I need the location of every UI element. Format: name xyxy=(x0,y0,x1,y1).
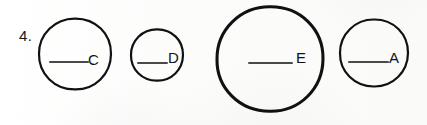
answer-blank-e[interactable] xyxy=(248,62,293,64)
circle-label-e: E xyxy=(296,50,306,65)
circle-outline-e xyxy=(213,2,327,116)
answer-blank-c[interactable] xyxy=(49,61,89,63)
circle-label-d: D xyxy=(168,50,179,65)
item-number: 4. xyxy=(19,28,32,43)
answer-blank-a[interactable] xyxy=(348,61,389,63)
circle-a xyxy=(336,15,412,91)
circle-outline-c xyxy=(35,14,115,94)
circle-c xyxy=(35,14,115,94)
worksheet-page: 4. CDEA xyxy=(0,0,427,125)
circle-label-c: C xyxy=(88,52,99,67)
circle-label-a: A xyxy=(389,50,399,65)
circle-outline-a xyxy=(336,15,412,91)
circle-e xyxy=(213,2,327,116)
answer-blank-d[interactable] xyxy=(137,62,168,64)
